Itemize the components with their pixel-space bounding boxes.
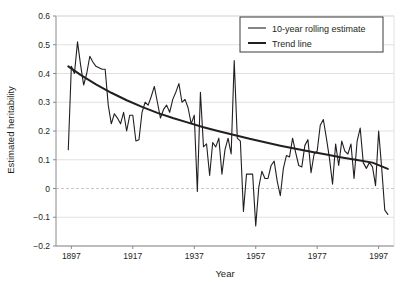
y-tick-label: 0.5 [38, 40, 50, 50]
y-tick-label: 0.3 [38, 97, 50, 107]
legend-label-rolling-estimate: 10-year rolling estimate [272, 24, 366, 34]
x-tick-label: 1997 [369, 251, 388, 261]
y-tick-label: 0.4 [38, 69, 50, 79]
heritability-line-chart: −0.2−0.100.10.20.30.40.50.6 189719171937… [0, 0, 412, 282]
x-tick-label: 1917 [123, 251, 142, 261]
chart-figure: −0.2−0.100.10.20.30.40.50.6 189719171937… [0, 0, 412, 282]
legend-label-trend-line: Trend line [272, 39, 312, 49]
x-tick-label: 1957 [246, 251, 265, 261]
x-axis-title: Year [215, 268, 234, 279]
y-tick-label: 0.1 [38, 155, 50, 165]
chart-legend: 10-year rolling estimateTrend line [240, 17, 383, 52]
x-tick-label: 1977 [308, 251, 327, 261]
y-tick-label: −0.1 [33, 212, 50, 222]
y-tick-label: −0.2 [33, 241, 50, 251]
y-axis-title: Estimated heritability [5, 86, 16, 174]
y-tick-label: 0.2 [38, 126, 50, 136]
y-tick-label: 0 [45, 184, 50, 194]
x-tick-label: 1937 [185, 251, 204, 261]
y-tick-label: 0.6 [38, 11, 50, 21]
x-tick-label: 1897 [62, 251, 81, 261]
